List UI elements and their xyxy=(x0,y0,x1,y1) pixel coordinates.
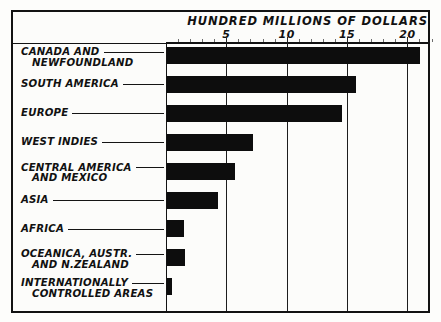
category-label-line1: ASIA xyxy=(21,194,49,205)
bar xyxy=(167,105,342,122)
leader-line xyxy=(136,254,164,255)
category-label-line2: AND N.ZEALAND xyxy=(21,260,164,271)
x-axis-minor-tick xyxy=(202,39,203,42)
leader-line xyxy=(68,229,164,230)
leader-line xyxy=(102,142,164,143)
chart-frame: HUNDRED MILLIONS OF DOLLARS 5101520 CANA… xyxy=(11,10,430,313)
x-axis-minor-tick xyxy=(190,39,191,42)
category-label: SOUTH AMERICA xyxy=(21,79,164,90)
x-axis-minor-tick xyxy=(238,39,239,42)
category-label: ASIA xyxy=(21,195,164,206)
x-axis-minor-tick xyxy=(395,39,396,42)
x-axis-minor-tick xyxy=(371,39,372,42)
category-label: CENTRAL AMERICAAND MEXICO xyxy=(21,163,164,184)
category-label-line1: EUROPE xyxy=(21,107,68,118)
category-label: INTERNATIONALLYCONTROLLED AREAS xyxy=(21,278,164,299)
x-axis-minor-tick xyxy=(275,39,276,42)
category-label-line2: AND MEXICO xyxy=(21,173,164,184)
bar xyxy=(167,163,235,180)
category-label: CANADA ANDNEWFOUNDLAND xyxy=(21,47,164,68)
x-axis-minor-tick xyxy=(419,39,420,42)
category-label-line2: NEWFOUNDLAND xyxy=(21,58,164,69)
category-label-column: CANADA ANDNEWFOUNDLANDSOUTH AMERICAEUROP… xyxy=(13,42,166,311)
chart-title: HUNDRED MILLIONS OF DOLLARS xyxy=(185,14,430,28)
x-axis-minor-tick xyxy=(359,39,360,42)
x-axis-minor-tick xyxy=(311,39,312,42)
bar xyxy=(167,47,420,64)
bar-chart-figure: HUNDRED MILLIONS OF DOLLARS 5101520 CANA… xyxy=(0,0,441,322)
plot-area xyxy=(166,42,428,311)
leader-line xyxy=(123,84,164,85)
category-label: WEST INDIES xyxy=(21,137,164,148)
category-label-line2: CONTROLLED AREAS xyxy=(21,289,164,300)
x-axis-minor-tick xyxy=(250,39,251,42)
leader-line xyxy=(136,167,164,168)
x-axis-minor-tick xyxy=(263,39,264,42)
bar xyxy=(167,134,253,151)
x-axis-minor-tick xyxy=(323,39,324,42)
bar xyxy=(167,249,185,266)
x-axis-minor-tick xyxy=(335,39,336,42)
category-label-line1: CANADA AND xyxy=(21,46,100,57)
x-axis-minor-tick xyxy=(178,39,179,42)
x-axis-minor-tick xyxy=(214,39,215,42)
bar xyxy=(167,220,184,237)
chart-header-band: HUNDRED MILLIONS OF DOLLARS 5101520 xyxy=(13,12,428,44)
leader-line xyxy=(72,113,164,114)
category-label-line1: AFRICA xyxy=(21,223,64,234)
bar xyxy=(167,76,356,93)
category-label: EUROPE xyxy=(21,108,164,119)
leader-line xyxy=(104,52,164,53)
x-axis-line xyxy=(166,42,428,43)
x-axis-minor-tick xyxy=(432,39,433,42)
x-axis-tick-labels: 5101520 xyxy=(13,28,428,42)
bar xyxy=(167,192,218,209)
category-label: OCEANICA, AUSTR.AND N.ZEALAND xyxy=(21,249,164,270)
category-label-line1: SOUTH AMERICA xyxy=(21,78,119,89)
x-axis-minor-tick xyxy=(299,39,300,42)
category-label-line1: INTERNATIONALLY xyxy=(21,277,128,288)
gridline-20 xyxy=(407,42,408,311)
x-axis-minor-tick xyxy=(383,39,384,42)
leader-line xyxy=(53,200,164,201)
category-label-line1: OCEANICA, AUSTR. xyxy=(21,248,132,259)
category-label-line1: WEST INDIES xyxy=(21,136,98,147)
bar xyxy=(167,278,172,295)
leader-line xyxy=(132,283,164,284)
category-label: AFRICA xyxy=(21,224,164,235)
category-label-line1: CENTRAL AMERICA xyxy=(21,162,132,173)
